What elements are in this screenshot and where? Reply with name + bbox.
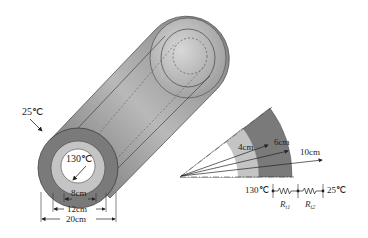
pipe-back-end	[150, 18, 226, 98]
inner-temperature-label: 130℃	[66, 153, 92, 164]
resistor-rt2-label: Rt2	[304, 199, 315, 210]
dimension-20cm: 20cm	[66, 214, 86, 224]
resistor-rt2	[298, 188, 323, 194]
outer-temperature-arrow	[30, 119, 42, 131]
resistor-rt1-label: Rt1	[279, 199, 290, 210]
diagram-canvas: 130℃ 25℃ 8cm 12cm 20cm	[0, 0, 368, 238]
radius-10cm: 10cm	[300, 147, 320, 157]
dimension-12cm: 12cm	[67, 204, 87, 214]
radius-4cm: 4cm	[238, 142, 254, 152]
circuit-right-temperature: 25℃	[327, 185, 346, 195]
section-wedge: 4cm 6cm 10cm	[180, 107, 322, 177]
resistor-rt1	[273, 188, 298, 194]
circuit-left-temperature: 130℃	[245, 185, 269, 195]
radius-6cm: 6cm	[274, 137, 290, 147]
dimension-8cm: 8cm	[71, 188, 87, 198]
pipe-cylinder: 130℃	[38, 16, 229, 208]
outer-temperature-label: 25℃	[22, 106, 43, 117]
thermal-circuit: 130℃ 25℃ Rt1 Rt2	[245, 184, 346, 210]
wedge-inner-bore	[180, 142, 238, 177]
